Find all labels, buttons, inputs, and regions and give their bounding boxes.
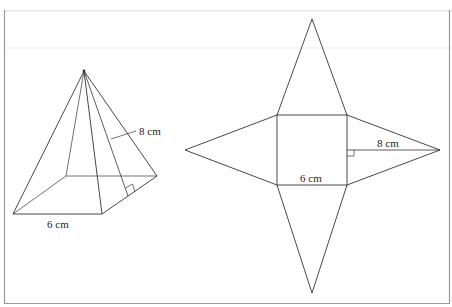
net-base-side-label: 6 cm [300, 172, 322, 184]
net-slant-height-label: 8 cm [377, 137, 399, 149]
pyramid-base-side-label: 6 cm [47, 218, 69, 230]
pyramid-slant-height-label: 8 cm [139, 125, 161, 137]
net-triangle-bottom [277, 185, 347, 293]
pyramid-net [185, 19, 440, 293]
net-triangle-left [185, 115, 277, 185]
figure-frame [4, 10, 452, 304]
diagram-canvas: 8 cm 6 cm 8 cm 6 cm [0, 0, 452, 307]
apex-point [83, 70, 86, 73]
square-pyramid [13, 71, 157, 214]
net-triangle-top [277, 19, 347, 115]
